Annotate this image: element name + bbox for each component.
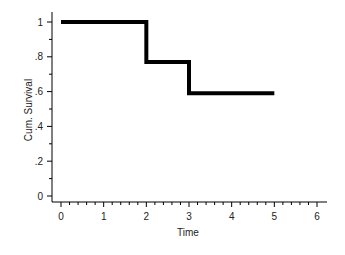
survival-chart: 0.2.4.6.810123456 Time Cum. Survival [0,0,345,255]
y-tick-label: .4 [35,121,44,132]
x-tick-label: 3 [186,211,192,222]
x-tick-label: 4 [229,211,235,222]
x-axis-label: Time [177,227,199,238]
y-tick-label: .6 [35,86,44,97]
plot-area [61,22,274,93]
x-tick-label: 5 [272,211,278,222]
y-tick-label: 0 [37,191,43,202]
x-tick-label: 2 [144,211,150,222]
y-tick-label: .8 [35,51,44,62]
x-tick-label: 1 [101,211,107,222]
y-tick-label: 1 [37,17,43,28]
x-tick-label: 0 [58,211,64,222]
y-axis-label: Cum. Survival [23,79,34,141]
x-tick-label: 6 [314,211,320,222]
y-tick-label: .2 [35,156,44,167]
axes: 0.2.4.6.810123456 [35,12,327,222]
survival-step-line [61,22,274,93]
